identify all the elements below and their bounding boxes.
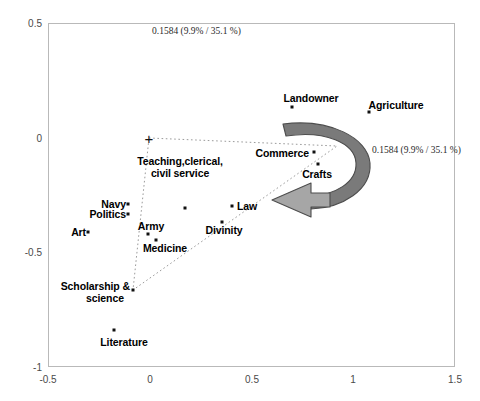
label-army: Army — [138, 220, 164, 232]
point-crafts — [317, 163, 320, 166]
y-tick-0: 0 — [18, 133, 42, 144]
point-army — [147, 233, 150, 236]
label-law: Law — [237, 200, 257, 212]
label-agriculture: Agriculture — [369, 99, 424, 111]
label-divinity: Divinity — [205, 224, 242, 236]
y-tick-0.5: 0.5 — [18, 18, 42, 29]
label-crafts: Crafts — [302, 168, 332, 180]
label-scholarship-line2: science — [86, 292, 124, 304]
label-politics: Politics — [89, 208, 126, 220]
point-landowner — [291, 106, 294, 109]
inertia-annotation-top: 0.1584 (9.9% / 35.1 %) — [152, 26, 241, 36]
label-medicine: Medicine — [143, 242, 187, 254]
label-commerce: Commerce — [256, 147, 309, 159]
label-art: Art — [71, 226, 86, 238]
point-commerce — [313, 151, 316, 154]
point-scholarship — [132, 289, 135, 292]
centroid-marker: + — [145, 131, 154, 146]
point-navy — [127, 203, 130, 206]
x-tick-0.5: 0.5 — [245, 374, 259, 385]
label-landowner: Landowner — [283, 92, 338, 104]
point-literature — [113, 329, 116, 332]
label-scholarship-line1: Scholarship & — [61, 280, 130, 292]
point-politics — [127, 213, 130, 216]
chart-canvas: 0.5 0 -0.5 -1 -0.5 0 0.5 1 1.5 0.1584 (9… — [0, 0, 480, 401]
y-tick--0.5: -0.5 — [12, 247, 42, 258]
label-literature: Literature — [100, 336, 147, 348]
point-law — [231, 205, 234, 208]
point-teaching — [184, 207, 187, 210]
x-tick-1: 1 — [350, 374, 356, 385]
plot-frame — [48, 23, 455, 367]
x-tick-0: 0 — [147, 374, 153, 385]
inertia-annotation-right: 0.1584 (9.9% / 35.1 %) — [372, 145, 461, 155]
label-teaching-line1: Teaching,clerical, — [137, 155, 223, 167]
point-art — [87, 231, 90, 234]
y-tick--1: -1 — [12, 362, 42, 373]
label-teaching-line2: civil service — [151, 167, 209, 179]
x-tick--0.5: -0.5 — [39, 374, 56, 385]
x-tick-1.5: 1.5 — [448, 374, 462, 385]
